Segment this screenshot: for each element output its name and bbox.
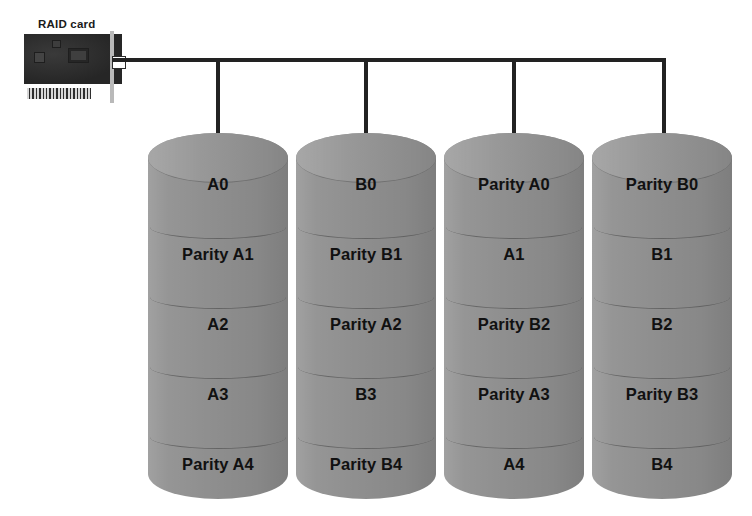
- stripe-label: Parity A2: [296, 315, 436, 334]
- stripe-label: B0: [296, 175, 436, 194]
- disk-stripe: A1: [444, 227, 584, 297]
- disk-stripe: B3: [296, 367, 436, 437]
- disk-stripe: Parity A0: [444, 157, 584, 227]
- disk-stripe: Parity B3: [592, 367, 732, 437]
- disk-stripe: Parity B1: [296, 227, 436, 297]
- disk-stripe: Parity B2: [444, 297, 584, 367]
- disk-stripe: B4: [592, 437, 732, 507]
- disk-stripe: Parity B0: [592, 157, 732, 227]
- disk-cylinder: Parity A0 A1 Parity B2 Parity A3 A4: [444, 133, 584, 499]
- disk-stripe: B0: [296, 157, 436, 227]
- disk-stripe: B1: [592, 227, 732, 297]
- raid-diagram-canvas: RAID card A0 Parity A1: [0, 0, 752, 516]
- stripe-label: B1: [592, 245, 732, 264]
- stripe-label: B2: [592, 315, 732, 334]
- stripe-label: A2: [148, 315, 288, 334]
- disk-cylinder: Parity B0 B1 B2 Parity B3 B4: [592, 133, 732, 499]
- disk-stripe: Parity A4: [148, 437, 288, 507]
- disk-stripe: B2: [592, 297, 732, 367]
- disk-stripe: A2: [148, 297, 288, 367]
- disk-stripe: Parity A1: [148, 227, 288, 297]
- disk-stripe: A3: [148, 367, 288, 437]
- disk-cylinder: B0 Parity B1 Parity A2 B3 Parity B4: [296, 133, 436, 499]
- stripe-label: Parity A3: [444, 385, 584, 404]
- stripe-label: Parity B0: [592, 175, 732, 194]
- disk-stripe: Parity A3: [444, 367, 584, 437]
- disk-array: A0 Parity A1 A2 A3 Parity A4: [0, 0, 752, 516]
- stripe-label: B3: [296, 385, 436, 404]
- stripe-label: Parity B4: [296, 455, 436, 474]
- stripe-label: Parity B1: [296, 245, 436, 264]
- stripe-label: Parity A0: [444, 175, 584, 194]
- disk-stripe: Parity B4: [296, 437, 436, 507]
- stripe-label: Parity A1: [148, 245, 288, 264]
- stripe-label: Parity B2: [444, 315, 584, 334]
- stripe-label: Parity A4: [148, 455, 288, 474]
- stripe-label: A4: [444, 455, 584, 474]
- stripe-label: B4: [592, 455, 732, 474]
- disk-cylinder: A0 Parity A1 A2 A3 Parity A4: [148, 133, 288, 499]
- disk-stripe: A0: [148, 157, 288, 227]
- disk-stripe: Parity A2: [296, 297, 436, 367]
- disk-stripe: A4: [444, 437, 584, 507]
- stripe-label: A3: [148, 385, 288, 404]
- stripe-label: A1: [444, 245, 584, 264]
- stripe-label: Parity B3: [592, 385, 732, 404]
- stripe-label: A0: [148, 175, 288, 194]
